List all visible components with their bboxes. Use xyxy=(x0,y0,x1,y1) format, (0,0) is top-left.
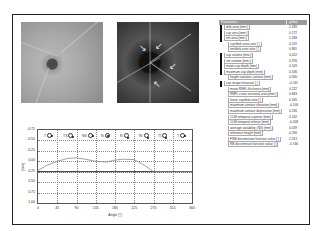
topography-image xyxy=(21,22,103,103)
x-tick-label: 135 xyxy=(93,206,99,210)
y-tick-label: -0.50 xyxy=(21,137,35,141)
contour-line-chart: [mm] -0.75-0.50-0.250.000.250.500.751.00… xyxy=(21,127,211,222)
parameter-label: RB discriminant function value [ ] xyxy=(219,142,286,148)
x-tick-label: 90 xyxy=(75,206,79,210)
x-tick-label: 225 xyxy=(131,206,137,210)
y-tick-label: -0.25 xyxy=(21,148,35,152)
parameter-value: -0.746 xyxy=(286,142,307,148)
y-tick-label: 0.75 xyxy=(21,190,35,194)
x-tick-label: 180 xyxy=(112,206,118,210)
x-tick-label: 270 xyxy=(151,206,157,210)
height-profile-curve xyxy=(38,130,192,203)
y-tick-label: 0.25 xyxy=(21,169,35,173)
y-tick-label: 0.50 xyxy=(21,179,35,183)
parameters-table: Parameters global disk area [mm²]1.439cu… xyxy=(219,20,307,148)
y-tick-label: 1.00 xyxy=(21,200,35,204)
report-frame: ↘ ↙ ↙ ↖ Parameters global disk area [mm²… xyxy=(12,14,310,225)
x-tick-label: 315 xyxy=(170,206,176,210)
arrow-marker-icon: ↙ xyxy=(155,42,163,51)
arrow-marker-icon: ↘ xyxy=(139,44,147,53)
arrow-marker-icon: ↙ xyxy=(169,62,177,71)
reflectance-image: ↘ ↙ ↙ ↖ xyxy=(117,22,199,103)
plot-area: TTSNSNNNITIT xyxy=(37,129,193,204)
arrow-marker-icon: ↖ xyxy=(153,80,161,89)
table-row: RB discriminant function value [ ]-0.746 xyxy=(219,142,307,148)
y-tick-label: 0.00 xyxy=(21,158,35,162)
x-tick-label: 360 xyxy=(189,206,195,210)
x-tick-label: 0 xyxy=(37,206,39,210)
y-tick-label: -0.75 xyxy=(21,127,35,131)
x-tick-label: 45 xyxy=(55,206,59,210)
x-axis-label: Angle [°] xyxy=(108,213,121,217)
